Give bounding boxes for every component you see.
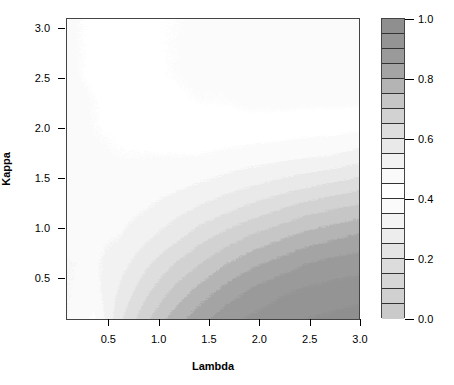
colorbar-band (382, 34, 404, 49)
x-axis-tick-label: 0.5 (101, 333, 116, 345)
x-axis-tick-label: 2.0 (252, 333, 267, 345)
colorbar-band (382, 274, 404, 289)
contour-plot-figure: 0.51.01.52.02.53.0 Kappa 0.51.01.52.02.5… (0, 0, 454, 385)
y-axis-tick-label: 3.0 (35, 22, 50, 34)
colorbar-band (382, 169, 404, 184)
colorbar-tick-label: 0.4 (418, 193, 433, 205)
x-axis-tick (108, 319, 109, 326)
colorbar-band (382, 124, 404, 139)
plot-panel (66, 18, 360, 320)
colorbar-tick-label: 0.8 (418, 73, 433, 85)
y-axis-tick-label: 0.5 (35, 272, 50, 284)
y-axis-tick-label: 1.0 (35, 222, 50, 234)
contour-field (67, 19, 359, 319)
colorbar-band (382, 199, 404, 214)
x-axis-tick-label: 2.5 (302, 333, 317, 345)
colorbar-band (382, 229, 404, 244)
x-axis-tick (310, 319, 311, 326)
y-axis-tick-label: 2.0 (35, 122, 50, 134)
colorbar-band (382, 214, 404, 229)
colorbar-band (382, 139, 404, 154)
colorbar-tick (405, 319, 414, 320)
colorbar-band (382, 289, 404, 304)
x-axis-tick-label: 1.0 (151, 333, 166, 345)
y-axis-tick (58, 128, 65, 129)
colorbar-legend: 0.00.20.40.60.81.0 (381, 18, 454, 320)
x-axis-tick (360, 319, 361, 326)
colorbar-band (382, 184, 404, 199)
colorbar-band (382, 259, 404, 274)
colorbar-tick-label: 0.0 (418, 313, 433, 325)
colorbar-tick-label: 1.0 (418, 13, 433, 25)
colorbar-tick (405, 259, 414, 260)
colorbar-band (382, 49, 404, 64)
x-axis-title: Lambda (192, 360, 234, 372)
x-axis-tick (159, 319, 160, 326)
x-axis-tick (259, 319, 260, 326)
colorbar-tick-label: 0.6 (418, 133, 433, 145)
colorbar-tick-label: 0.2 (418, 253, 433, 265)
y-axis-tick (58, 28, 65, 29)
colorbar-band (382, 79, 404, 94)
y-axis-tick (58, 178, 65, 179)
colorbar-axis: 0.00.20.40.60.81.0 (405, 18, 454, 320)
x-axis: 0.51.01.52.02.53.0 (66, 320, 360, 350)
y-axis-tick (58, 78, 65, 79)
x-axis-tick-label: 3.0 (352, 333, 367, 345)
colorbar-band (382, 64, 404, 79)
colorbar-gradient (381, 18, 405, 318)
colorbar-tick (405, 139, 414, 140)
y-axis-tick (58, 228, 65, 229)
colorbar-band (382, 244, 404, 259)
x-axis-tick (209, 319, 210, 326)
colorbar-tick (405, 19, 414, 20)
y-axis-tick (58, 278, 65, 279)
colorbar-band (382, 19, 404, 34)
colorbar-band (382, 94, 404, 109)
colorbar-band (382, 304, 404, 319)
y-axis-title: Kappa (0, 152, 12, 186)
colorbar-tick (405, 79, 414, 80)
y-axis-tick-label: 1.5 (35, 172, 50, 184)
colorbar-tick (405, 199, 414, 200)
y-axis-tick-label: 2.5 (35, 72, 50, 84)
colorbar-band (382, 154, 404, 169)
colorbar-band (382, 109, 404, 124)
x-axis-tick-label: 1.5 (201, 333, 216, 345)
